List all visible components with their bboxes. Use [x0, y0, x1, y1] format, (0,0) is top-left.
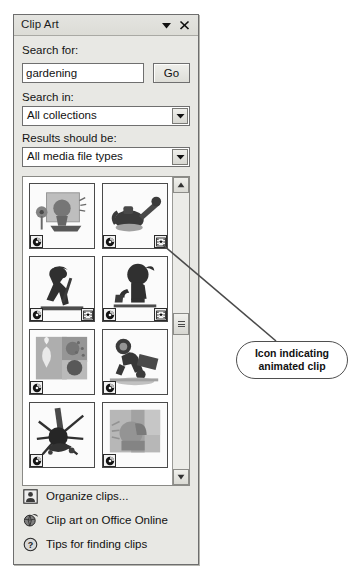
chevron-down-icon[interactable] [160, 18, 173, 32]
chevron-down-icon[interactable] [172, 108, 188, 124]
results-should-be-combobox[interactable]: All media file types [22, 147, 190, 167]
annotation-line-1: Icon indicating [255, 347, 329, 360]
clip-thumbnail[interactable] [102, 256, 168, 322]
chevron-down-icon[interactable] [172, 149, 188, 165]
help-question-icon: ? [22, 536, 39, 553]
annotation-line-2: animated clip [258, 360, 325, 373]
scroll-down-arrow-icon[interactable] [173, 469, 189, 485]
clip-thumbnail[interactable] [29, 329, 95, 395]
cd-badge-icon [30, 454, 43, 467]
cd-badge-icon [103, 454, 116, 467]
cd-badge-icon [30, 308, 43, 321]
search-row: Go [22, 63, 190, 83]
results-should-be-label: Results should be: [22, 132, 198, 144]
clip-thumbnail[interactable] [29, 402, 95, 468]
office-online-globe-icon [22, 512, 39, 529]
organize-clips-link[interactable]: Organize clips... [22, 484, 190, 508]
search-in-label: Search in: [22, 91, 198, 103]
clip-thumbnail[interactable] [102, 183, 168, 249]
clip-thumbnail-grid [23, 177, 172, 485]
clip-results-area [22, 176, 190, 486]
clip-thumbnail[interactable] [102, 329, 168, 395]
cd-badge-icon [30, 235, 43, 248]
close-icon[interactable] [178, 18, 191, 32]
results-should-be-value: All media file types [27, 150, 123, 162]
search-in-combobox[interactable]: All collections [22, 106, 190, 126]
clip-thumbnail[interactable] [29, 183, 95, 249]
cd-badge-icon [103, 235, 116, 248]
search-in-value: All collections [27, 109, 97, 121]
clip-thumbnail[interactable] [102, 402, 168, 468]
task-pane-title-bar: Clip Art [14, 15, 198, 36]
animated-clip-badge-icon [154, 235, 167, 248]
clip-art-task-pane: Clip Art Search for: Go Search in: All c… [13, 14, 199, 565]
animated-clip-badge-icon [154, 308, 167, 321]
go-button[interactable]: Go [153, 63, 190, 83]
cd-badge-icon [103, 308, 116, 321]
clip-art-on-office-online-label: Clip art on Office Online [46, 514, 168, 526]
annotation-callout: Icon indicating animated clip [236, 341, 348, 379]
task-pane-links: Organize clips... Clip art on Office Onl… [22, 484, 190, 556]
cd-badge-icon [30, 381, 43, 394]
search-input[interactable] [22, 63, 144, 83]
cd-badge-icon [103, 381, 116, 394]
clip-art-on-office-online-link[interactable]: Clip art on Office Online [22, 508, 190, 532]
tips-for-finding-clips-label: Tips for finding clips [46, 538, 147, 550]
scroll-up-arrow-icon[interactable] [173, 177, 189, 193]
results-scrollbar[interactable] [172, 177, 189, 485]
search-for-label: Search for: [22, 44, 198, 56]
tips-for-finding-clips-link[interactable]: ? Tips for finding clips [22, 532, 190, 556]
clip-thumbnail[interactable] [29, 256, 95, 322]
scrollbar-thumb-grip-icon[interactable] [173, 313, 189, 335]
scrollbar-track[interactable] [173, 193, 189, 469]
svg-text:?: ? [28, 540, 34, 550]
task-pane-title: Clip Art [21, 18, 59, 30]
animated-clip-badge-icon [81, 308, 94, 321]
organize-clips-label: Organize clips... [46, 490, 128, 502]
organize-clips-icon [22, 488, 39, 505]
